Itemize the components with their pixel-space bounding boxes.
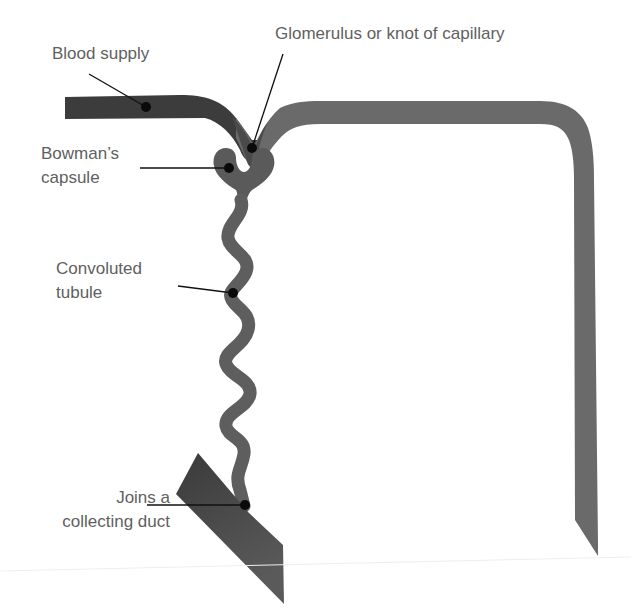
label-collecting-duct-line-1: Joins a — [31, 486, 170, 510]
label-collecting-duct-line-2: collecting duct — [31, 510, 170, 534]
label-bowmans-capsule: Bowman’s capsule — [41, 142, 119, 190]
label-bowmans-capsule-line-1: Bowman’s — [41, 142, 119, 166]
label-glomerulus: Glomerulus or knot of capillary — [275, 22, 505, 46]
label-blood-supply-line-1: Blood supply — [52, 42, 149, 66]
label-glomerulus-line-1: Glomerulus or knot of capillary — [275, 22, 505, 46]
scan-artifact — [0, 557, 631, 571]
label-convoluted-tubule-line-2: tubule — [56, 281, 142, 305]
label-blood-supply: Blood supply — [52, 42, 149, 66]
convoluted-tubule — [226, 200, 251, 506]
label-convoluted-tubule: Convoluted tubule — [56, 257, 142, 305]
label-bowmans-capsule-line-2: capsule — [41, 166, 119, 190]
collecting-duct — [176, 453, 284, 604]
label-convoluted-tubule-line-1: Convoluted — [56, 257, 142, 281]
efferent-vessel — [236, 101, 598, 556]
label-collecting-duct: Joins a collecting duct — [31, 486, 170, 534]
